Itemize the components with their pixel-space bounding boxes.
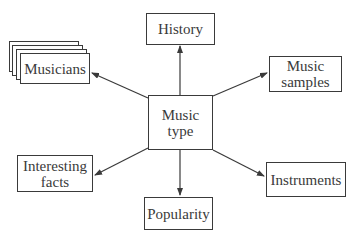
node-instruments: Instruments [266, 162, 346, 197]
node-music-samples: Music samples [269, 56, 342, 92]
node-history: History [146, 13, 215, 45]
node-history-label: History [158, 21, 203, 37]
arrow-to-instruments [213, 150, 264, 176]
mind-map-diagram: History Musicians Music samples Music ty… [0, 0, 357, 237]
node-musicians: Musicians [20, 53, 90, 84]
arrow-to-interesting-facts [95, 148, 148, 175]
node-interesting-facts-label: Interesting facts [23, 158, 87, 190]
node-instruments-label: Instruments [271, 172, 342, 188]
arrow-to-music-samples [213, 73, 267, 96]
node-music-type-label: Music type [162, 107, 200, 139]
node-popularity-label: Popularity [147, 206, 210, 222]
node-musicians-label: Musicians [24, 61, 86, 77]
node-music-samples-label: Music samples [281, 58, 329, 90]
node-interesting-facts: Interesting facts [17, 155, 93, 192]
node-music-type: Music type [148, 95, 213, 150]
arrow-to-musicians [92, 73, 148, 98]
node-popularity: Popularity [144, 197, 213, 230]
